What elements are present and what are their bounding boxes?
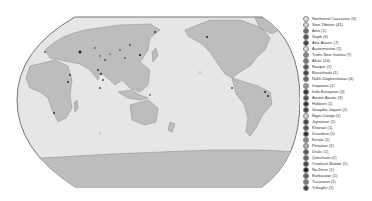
legend-item: Yukaghir (1) bbox=[303, 185, 372, 191]
landmass-antarctica bbox=[0, 150, 300, 201]
legend-marker-icon bbox=[303, 89, 309, 95]
legend-label: Yukaghir (1) bbox=[312, 185, 334, 191]
legend-marker-icon bbox=[303, 185, 309, 191]
legend-marker-icon bbox=[303, 113, 309, 119]
legend-marker-icon bbox=[303, 125, 309, 131]
legend-marker-icon bbox=[303, 101, 309, 107]
legend-marker-icon bbox=[303, 95, 309, 101]
legend-marker-icon bbox=[303, 83, 309, 89]
legend-marker-icon bbox=[303, 107, 309, 113]
map-legend: Northwest Caucasian (3)Sino-Tibetan (41)… bbox=[303, 16, 372, 191]
legend-marker-icon bbox=[303, 119, 309, 125]
world-map bbox=[0, 0, 300, 201]
